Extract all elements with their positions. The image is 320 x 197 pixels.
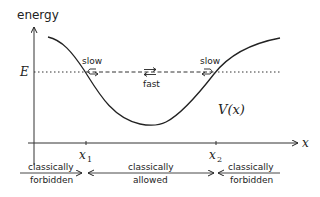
svg-text:classically: classically [128,162,174,172]
potential-label: V(x) [218,102,245,117]
y-axis: energy [17,8,59,165]
turning-point-x2: x 2 [209,141,222,164]
svg-text:allowed: allowed [133,175,168,185]
svg-text:2: 2 [217,155,222,164]
svg-text:classically: classically [228,162,274,172]
region-allowed: classically allowed [88,162,214,185]
slow-annotation-left: slow [82,56,102,76]
svg-text:classically: classically [28,162,74,172]
right-arrow-icon [144,68,156,72]
left-arrow-icon [144,73,156,77]
svg-text:x: x [79,148,86,162]
turning-point-x1: x 1 [79,141,92,164]
fast-annotation: fast [143,68,160,90]
potential-curve [48,37,280,125]
x-axis-label: x [302,136,309,150]
energy-level: E [19,65,282,79]
svg-text:x: x [209,148,216,162]
svg-text:fast: fast [143,79,160,89]
energy-level-label: E [19,65,29,79]
svg-text:slow: slow [200,56,220,66]
potential-well-diagram: energy x x 1 x 2 E V(x) slow fast slow [0,0,320,197]
svg-text:forbidden: forbidden [230,175,273,185]
x-axis: x [28,136,309,150]
y-axis-label: energy [17,8,59,22]
slow-annotation-right: slow [200,56,220,76]
svg-text:forbidden: forbidden [30,175,73,185]
region-forbidden-left: classically forbidden [20,162,82,185]
region-forbidden-right: classically forbidden [218,162,280,185]
svg-text:1: 1 [87,155,92,164]
svg-text:slow: slow [82,56,102,66]
